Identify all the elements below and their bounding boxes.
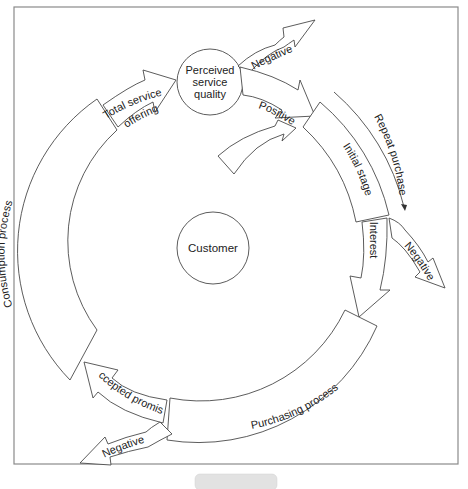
customer-node: Customer — [177, 212, 249, 284]
quality-label-line2: service — [193, 76, 228, 88]
svg-text:Consumption process: Consumption process — [0, 198, 15, 309]
customer-label: Customer — [188, 242, 238, 254]
quality-label-line1: Perceived — [186, 64, 235, 76]
perceived-service-quality-node: Perceived service quality — [177, 49, 243, 115]
interest-label: Interest — [368, 222, 380, 259]
caption-tab — [195, 474, 277, 489]
consumption-process-label: Consumption process — [0, 198, 15, 309]
quality-label-line3: quality — [194, 88, 226, 100]
customer-relationship-lifecycle-diagram: Customer Consumption process Total servi… — [0, 0, 468, 489]
